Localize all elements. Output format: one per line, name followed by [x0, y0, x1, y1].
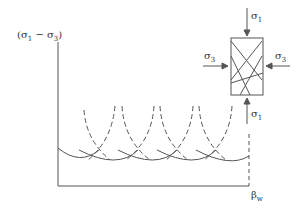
sigma3-right-label: σ3 — [275, 50, 286, 64]
load-arrows — [203, 8, 290, 124]
sigma1-bottom-main: σ — [251, 108, 258, 119]
x-label-sub: w — [257, 195, 263, 203]
y-label-mid: − σ — [32, 29, 54, 40]
sigma3-left-main: σ — [204, 50, 211, 61]
sigma1-top-label: σ1 — [251, 10, 262, 24]
sigma3-left-sub: 3 — [211, 56, 215, 64]
sigma1-bottom-sub: 1 — [258, 114, 262, 122]
solid-envelope-curves — [58, 148, 249, 161]
dashed-plane-curves — [84, 106, 232, 160]
sigma3-right-sub: 3 — [282, 56, 286, 64]
sigma1-top-sub: 1 — [258, 16, 262, 24]
sigma1-top-main: σ — [251, 10, 258, 21]
sigma3-right-main: σ — [275, 50, 282, 61]
y-label-suffix: ) — [58, 29, 62, 40]
specimen-box — [231, 38, 263, 95]
x-axis-label: βw — [251, 189, 263, 203]
sigma1-bottom-label: σ1 — [251, 108, 262, 122]
sigma3-left-label: σ3 — [204, 50, 215, 64]
y-label-prefix: (σ — [17, 29, 28, 40]
y-axis-label: (σ1 − σ3) — [17, 29, 62, 43]
